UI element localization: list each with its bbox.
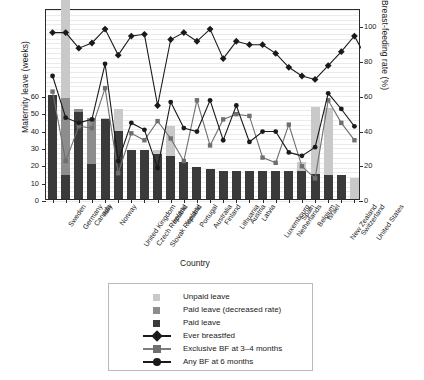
legend-label: Paid leave [183,318,220,327]
line-marker [287,122,291,126]
legend-item[interactable]: Exclusive BF at 3–4 months [109,342,312,355]
y-axis-tick-label: 60 [21,92,39,101]
line-marker [299,73,306,80]
y-axis-tick-label: 50 [21,109,39,118]
line-marker [103,61,108,66]
legend-swatch-icon [153,320,160,327]
y-axis-tick [42,201,46,202]
legend-marker-icon [153,345,161,353]
line-marker [247,140,252,145]
y2-axis-tick-label: 60 [364,92,384,101]
line-marker [313,145,318,150]
line-marker [300,164,304,168]
line-marker [129,120,134,125]
y2-axis-tick [359,201,363,202]
line-marker [168,100,173,105]
line-marker [90,126,94,130]
line-marker [142,127,147,132]
line-marker [90,117,95,122]
line-marker [181,126,186,131]
line-marker [273,129,278,134]
line-marker [141,31,148,38]
x-axis-title: Country [80,258,310,268]
legend-item[interactable]: Ever breastfed [109,329,312,342]
line-marker [168,136,172,140]
legend-key [139,304,179,316]
line-marker [155,166,160,171]
y-axis-tick-label: 10 [21,179,39,188]
line-marker [286,150,291,155]
legend-key [139,356,179,368]
x-axis-tick-label: Norway [118,203,137,226]
line-marker [339,121,343,125]
line-marker [234,103,239,108]
y2-axis-tick-label: 20 [364,161,384,170]
line-marker [76,120,81,125]
line-marker [352,124,357,129]
line-marker [221,117,225,121]
y-axis-tick-label: 20 [21,161,39,170]
line-marker [154,102,161,109]
y2-axis-tick-label: 100 [364,22,384,31]
line-marker [195,98,199,102]
legend-item[interactable]: Any BF at 6 months [109,355,312,368]
line-path [53,88,355,178]
line-marker [155,119,159,123]
line-marker [49,29,56,36]
legend-label: Any BF at 6 months [183,357,253,366]
legend-label: Ever breastfed [183,331,235,340]
y-axis-tick-label: 0 [21,196,39,205]
line-marker [352,138,356,142]
line-marker [50,89,54,93]
line-marker [300,153,305,158]
legend-key [139,291,179,303]
legend-label: Paid leave (decreased rate) [183,305,281,314]
line-marker [129,131,133,135]
legend-item[interactable]: Paid leave (decreased rate) [109,303,312,316]
line-path [53,29,361,105]
legend-key [139,343,179,355]
line-marker [115,52,122,59]
plot-area: 6050403020100100806040200 [45,9,360,200]
line-marker [273,161,277,165]
legend-label: Unpaid leave [183,292,230,301]
y-axis-tick-label: 40 [21,127,39,136]
y2-axis-tick-label: 80 [364,57,384,66]
line-marker [208,143,212,147]
legend-swatch-icon [153,294,160,301]
line-marker [167,36,174,43]
legend-marker-icon [153,358,161,366]
line-marker [128,33,135,40]
legend-item[interactable]: Unpaid leave [109,290,312,303]
legend-key [139,330,179,342]
line-marker [180,29,187,36]
y2-axis-title: Breast-feeding rate (%) [380,0,390,100]
line-marker [326,91,331,96]
line-marker [50,74,55,79]
legend-item[interactable]: Paid leave [109,316,312,329]
line-marker [103,86,107,90]
gridline [46,201,359,202]
legend-swatch-icon [153,307,160,314]
line-marker [339,107,344,112]
line-marker [247,114,251,118]
line-marker [142,138,146,142]
line-marker [182,159,186,163]
line-marker [221,138,226,143]
line-marker [259,41,266,48]
y2-axis-tick-label: 40 [364,127,384,136]
line-marker [63,115,68,120]
line-marker [234,112,238,116]
line-series-overlay [46,10,361,201]
line-marker [63,159,67,163]
chart-root: Maternity leave (weeks) Breast-feeding r… [0,0,424,380]
legend-label: Exclusive BF at 3–4 months [183,344,282,353]
legend-key [139,317,179,329]
line-path [53,64,355,168]
line-marker [260,155,264,159]
y-axis-tick-label: 30 [21,144,39,153]
line-marker [313,176,317,180]
chart-legend: Unpaid leavePaid leave (decreased rate)P… [108,283,313,371]
line-marker [208,98,213,103]
line-marker [260,129,265,134]
